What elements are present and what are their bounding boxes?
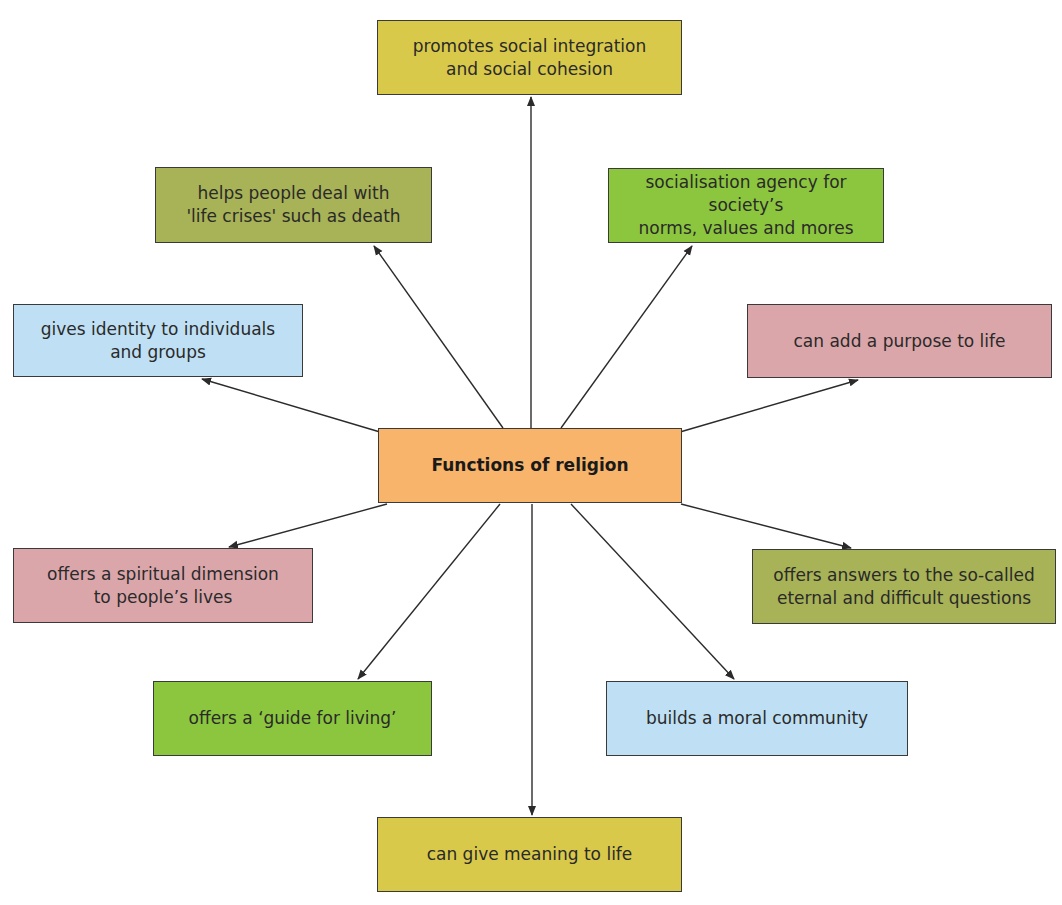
node-meaning-to-life: can give meaning to life — [377, 817, 682, 892]
node-label: gives identity to individuals and groups — [41, 318, 275, 364]
node-helps-deal-with-life-crises: helps people deal with 'life crises' suc… — [155, 167, 432, 243]
node-label: offers a spiritual dimension to people’s… — [47, 563, 279, 609]
node-label: helps people deal with 'life crises' suc… — [186, 182, 400, 228]
central-topic-functions-of-religion: Functions of religion — [378, 428, 682, 503]
arrow-to-guide — [358, 504, 500, 679]
node-label: can add a purpose to life — [794, 330, 1006, 353]
node-label: socialisation agency for society’s norms… — [619, 171, 873, 240]
arrow-to-socialisation — [561, 246, 692, 428]
central-topic-label: Functions of religion — [431, 454, 628, 477]
node-answers-eternal-questions: offers answers to the so-called eternal … — [752, 549, 1056, 624]
node-label: builds a moral community — [646, 707, 868, 730]
arrow-to-answers — [681, 504, 851, 548]
node-adds-purpose: can add a purpose to life — [747, 304, 1052, 378]
arrow-to-life-crises — [374, 246, 503, 428]
node-promotes-social-integration: promotes social integration and social c… — [377, 20, 682, 95]
arrow-to-spiritual — [229, 504, 387, 547]
node-spiritual-dimension: offers a spiritual dimension to people’s… — [13, 548, 313, 623]
node-moral-community: builds a moral community — [606, 681, 908, 756]
node-socialisation-agency: socialisation agency for society’s norms… — [608, 168, 884, 243]
node-label: offers a ‘guide for living’ — [189, 707, 397, 730]
node-label: can give meaning to life — [427, 843, 633, 866]
node-guide-for-living: offers a ‘guide for living’ — [153, 681, 432, 756]
arrow-to-identity — [202, 379, 380, 432]
node-label: offers answers to the so-called eternal … — [773, 564, 1034, 610]
arrow-to-purpose — [680, 380, 858, 432]
arrow-to-moral — [571, 504, 734, 679]
node-gives-identity: gives identity to individuals and groups — [13, 304, 303, 377]
node-label: promotes social integration and social c… — [413, 35, 646, 81]
